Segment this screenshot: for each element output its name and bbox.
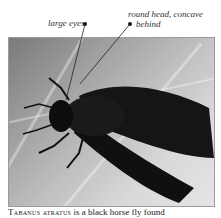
annotation-leader-lines xyxy=(0,0,221,218)
caption-text: is a black horse fly found xyxy=(71,207,164,217)
caption-species: Tabanus atratus xyxy=(8,207,71,217)
caption: Tabanus atratus is a black horse fly fou… xyxy=(8,207,221,218)
